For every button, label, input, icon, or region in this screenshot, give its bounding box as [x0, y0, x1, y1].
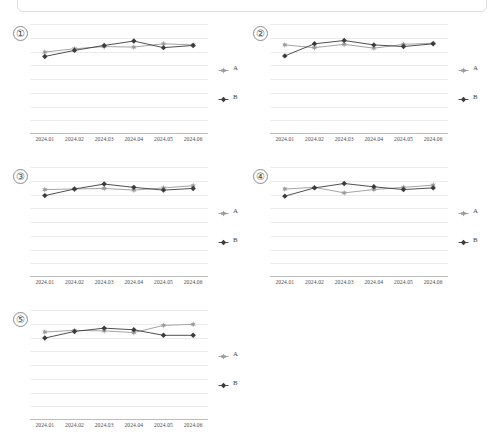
data-point-marker-diamond	[131, 38, 136, 43]
series-line-B	[45, 328, 193, 338]
legend-marker-star-icon	[458, 62, 469, 73]
x-axis-tick-labels: 2024.012024.022024.032024.042024.052024.…	[30, 136, 208, 148]
x-tick-label: 2024.05	[154, 422, 173, 428]
legend-marker-diamond-icon	[458, 91, 469, 102]
data-point-marker-diamond	[221, 239, 226, 244]
data-point-marker-diamond	[190, 333, 195, 338]
chart-panel-grid: ①2024.012024.022024.032024.042024.052024…	[0, 14, 499, 443]
data-point-marker-diamond	[161, 333, 166, 338]
series-B	[42, 181, 196, 198]
x-tick-label: 2024.03	[95, 136, 114, 142]
legend-marker-star-icon	[218, 62, 229, 73]
x-tick-label: 2024.03	[95, 279, 114, 285]
x-tick-label: 2024.03	[95, 422, 114, 428]
x-tick-label: 2024.02	[305, 279, 324, 285]
x-tick-label: 2024.04	[364, 279, 383, 285]
series-B	[42, 38, 196, 59]
data-point-marker-diamond	[72, 186, 77, 191]
x-tick-label: 2024.01	[35, 136, 54, 142]
plot-area	[30, 24, 208, 134]
panel-index-badge: ④	[253, 169, 268, 184]
series-B	[282, 181, 436, 199]
data-point-marker-diamond	[461, 96, 466, 101]
chart-panel-4: ④2024.012024.022024.032024.042024.052024…	[240, 161, 489, 303]
x-tick-label: 2024.05	[394, 279, 413, 285]
x-tick-label: 2024.01	[275, 136, 294, 142]
x-tick-label: 2024.06	[184, 279, 203, 285]
legend-label: B	[233, 379, 238, 386]
x-tick-label: 2024.05	[154, 279, 173, 285]
x-tick-label: 2024.03	[335, 279, 354, 285]
chart-legend: AB	[458, 61, 498, 119]
data-point-marker-diamond	[282, 53, 287, 58]
panel-index-badge: ②	[253, 26, 268, 41]
legend-label: A	[473, 207, 478, 214]
series-layer	[270, 24, 448, 134]
legend-item-B[interactable]: B	[458, 233, 498, 245]
data-point-marker-diamond	[42, 335, 47, 340]
x-tick-label: 2024.02	[65, 279, 84, 285]
x-tick-label: 2024.02	[65, 136, 84, 142]
legend-label: A	[233, 350, 238, 357]
plot-area	[270, 167, 448, 277]
series-A	[42, 183, 196, 194]
x-tick-label: 2024.06	[424, 279, 443, 285]
panel-index-badge: ③	[13, 169, 28, 184]
legend-item-B[interactable]: B	[458, 90, 498, 102]
series-line-B	[285, 41, 433, 56]
data-point-marker-diamond	[42, 54, 47, 59]
legend-item-A[interactable]: A	[458, 61, 498, 73]
data-point-marker-diamond	[341, 38, 346, 43]
data-point-marker-diamond	[461, 239, 466, 244]
x-tick-label: 2024.02	[305, 136, 324, 142]
legend-item-A[interactable]: A	[458, 204, 498, 216]
legend-marker-diamond-icon	[218, 234, 229, 245]
series-layer	[30, 167, 208, 277]
chart-legend: AB	[218, 347, 258, 405]
x-axis-tick-labels: 2024.012024.022024.032024.042024.052024.…	[30, 422, 208, 434]
legend-marker-diamond-icon	[218, 377, 229, 388]
chart-legend: AB	[458, 204, 498, 262]
legend-label: A	[233, 207, 238, 214]
panel-index-badge: ①	[13, 26, 28, 41]
x-tick-label: 2024.04	[124, 422, 143, 428]
x-tick-label: 2024.01	[275, 279, 294, 285]
legend-marker-star-icon	[218, 205, 229, 216]
series-layer	[30, 24, 208, 134]
series-line-B	[285, 184, 433, 197]
plot-area	[30, 310, 208, 420]
chart-panel-3: ③2024.012024.022024.032024.042024.052024…	[0, 161, 249, 303]
legend-marker-diamond-icon	[458, 234, 469, 245]
series-B	[42, 325, 196, 340]
x-tick-label: 2024.04	[124, 279, 143, 285]
data-point-marker-diamond	[221, 96, 226, 101]
series-layer	[30, 310, 208, 420]
legend-marker-diamond-icon	[218, 91, 229, 102]
legend-item-B[interactable]: B	[218, 376, 258, 388]
data-point-marker-diamond	[101, 181, 106, 186]
data-point-marker-diamond	[312, 41, 317, 46]
x-tick-label: 2024.04	[124, 136, 143, 142]
data-point-marker-diamond	[161, 45, 166, 50]
x-axis-tick-labels: 2024.012024.022024.032024.042024.052024.…	[270, 279, 448, 291]
x-axis-tick-labels: 2024.012024.022024.032024.042024.052024.…	[30, 279, 208, 291]
chart-panel-5: ⑤2024.012024.022024.032024.042024.052024…	[0, 304, 249, 443]
x-tick-label: 2024.03	[335, 136, 354, 142]
x-tick-label: 2024.04	[364, 136, 383, 142]
legend-label: B	[473, 93, 478, 100]
legend-item-A[interactable]: A	[218, 347, 258, 359]
x-tick-label: 2024.01	[35, 279, 54, 285]
legend-label: A	[473, 64, 478, 71]
x-tick-label: 2024.05	[154, 136, 173, 142]
legend-label: B	[473, 236, 478, 243]
series-layer	[270, 167, 448, 277]
x-tick-label: 2024.06	[424, 136, 443, 142]
data-point-marker-diamond	[221, 382, 226, 387]
x-tick-label: 2024.02	[65, 422, 84, 428]
chart-panel-2: ②2024.012024.022024.032024.042024.052024…	[240, 18, 489, 160]
x-tick-label: 2024.06	[184, 136, 203, 142]
data-point-marker-diamond	[341, 181, 346, 186]
x-tick-label: 2024.05	[394, 136, 413, 142]
series-line-A	[45, 324, 193, 332]
chart-panel-1: ①2024.012024.022024.032024.042024.052024…	[0, 18, 249, 160]
